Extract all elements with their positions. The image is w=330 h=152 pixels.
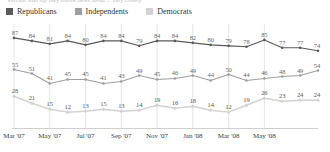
data-point[interactable] — [84, 44, 87, 47]
data-point[interactable] — [245, 104, 248, 107]
legend-item-independents[interactable]: Independents — [75, 7, 129, 16]
series-line-republicans — [14, 38, 318, 51]
data-point[interactable] — [192, 42, 195, 45]
data-point[interactable] — [263, 77, 266, 80]
x-axis-tick-label: Nov '07 — [146, 132, 168, 141]
data-point-label: 82 — [190, 34, 196, 41]
legend-label-independents: Independents — [86, 7, 129, 16]
data-point-label: 55 — [12, 61, 18, 68]
data-point[interactable] — [317, 99, 320, 102]
data-point-label: 80 — [82, 36, 88, 43]
data-point[interactable] — [191, 105, 194, 108]
data-point[interactable] — [84, 78, 87, 81]
line-chart: Percent who say they follow news about .… — [0, 0, 330, 152]
data-point-label: 12 — [64, 103, 70, 110]
data-point[interactable] — [84, 110, 87, 113]
data-point[interactable] — [30, 102, 33, 105]
data-point[interactable] — [156, 78, 159, 81]
data-point-label: 43 — [118, 72, 124, 79]
x-axis-tick-label: Mar '07 — [3, 132, 25, 141]
data-point[interactable] — [174, 40, 177, 43]
data-point[interactable] — [48, 108, 51, 111]
data-point-label: 14 — [208, 101, 214, 108]
data-point[interactable] — [299, 47, 302, 50]
data-point[interactable] — [209, 79, 212, 82]
data-point[interactable] — [299, 74, 302, 77]
data-point[interactable] — [120, 40, 123, 43]
data-point-label: 23 — [279, 92, 285, 99]
data-point[interactable] — [192, 74, 195, 77]
data-point[interactable] — [174, 77, 177, 80]
data-point[interactable] — [31, 72, 34, 75]
x-axis-tick-label: May '07 — [38, 132, 61, 141]
data-point[interactable] — [13, 68, 16, 71]
data-point[interactable] — [263, 97, 266, 100]
legend-item-republicans[interactable]: Republicans — [6, 7, 57, 16]
data-point-label: 54 — [314, 62, 320, 69]
data-point-label: 51 — [29, 65, 35, 72]
data-point[interactable] — [31, 40, 34, 43]
data-point[interactable] — [317, 49, 320, 52]
legend-swatch-republicans — [6, 8, 13, 15]
data-point[interactable] — [138, 74, 141, 77]
data-point[interactable] — [173, 107, 176, 110]
data-point-label: 81 — [47, 35, 53, 42]
data-point[interactable] — [227, 111, 230, 114]
data-point-label: 41 — [100, 74, 106, 81]
data-point[interactable] — [48, 43, 51, 46]
data-point[interactable] — [66, 111, 69, 114]
data-point-label: 19 — [154, 96, 160, 103]
data-point[interactable] — [245, 79, 248, 82]
data-point[interactable] — [281, 75, 284, 78]
data-point-label: 45 — [82, 70, 88, 77]
data-point-label: 77 — [297, 39, 303, 46]
data-point[interactable] — [66, 78, 69, 81]
data-point[interactable] — [263, 39, 266, 42]
data-point-label: 44 — [243, 71, 249, 78]
data-point[interactable] — [13, 37, 16, 40]
data-point[interactable] — [120, 80, 123, 83]
data-point[interactable] — [102, 40, 105, 43]
data-point-label: 49 — [136, 67, 142, 74]
data-point[interactable] — [102, 82, 105, 85]
data-point[interactable] — [245, 46, 248, 49]
data-point[interactable] — [209, 109, 212, 112]
data-point[interactable] — [227, 73, 230, 76]
data-point-label: 48 — [279, 68, 285, 75]
data-point[interactable] — [13, 95, 16, 98]
data-point-label: 84 — [172, 32, 178, 39]
data-point[interactable] — [156, 40, 159, 43]
data-point[interactable] — [156, 104, 159, 107]
data-point-label: 13 — [118, 102, 124, 109]
data-point-label: 46 — [261, 69, 267, 76]
data-point[interactable] — [317, 69, 320, 72]
data-point-label: 85 — [261, 31, 267, 38]
data-point-label: 24 — [297, 91, 303, 98]
data-point-label: 79 — [225, 37, 231, 44]
data-point[interactable] — [102, 108, 105, 111]
data-point[interactable] — [48, 82, 51, 85]
data-point[interactable] — [281, 47, 284, 50]
data-point[interactable] — [299, 99, 302, 102]
data-point-label: 24 — [314, 91, 320, 98]
data-point-label: 77 — [279, 39, 285, 46]
data-point[interactable] — [66, 40, 69, 43]
x-axis-tick-label: May '08 — [253, 132, 276, 141]
data-point[interactable] — [281, 100, 284, 103]
x-axis-tick-label: Mar '08 — [218, 132, 240, 141]
data-point[interactable] — [120, 110, 123, 113]
data-point[interactable] — [227, 45, 230, 48]
legend-label-democrats: Democrats — [157, 7, 192, 16]
data-point-label: 45 — [154, 70, 160, 77]
plot-area: 8784818480848479848482807978857777745551… — [0, 24, 330, 128]
data-point-label: 28 — [12, 87, 18, 94]
data-point-label: 13 — [82, 102, 88, 109]
data-point[interactable] — [138, 45, 141, 48]
data-point-label: 50 — [225, 66, 231, 73]
data-point-label: 78 — [243, 38, 249, 45]
data-point[interactable] — [209, 44, 212, 47]
legend-item-democrats[interactable]: Democrats — [146, 7, 192, 16]
data-point-label: 12 — [225, 103, 231, 110]
data-point-label: 18 — [190, 97, 196, 104]
data-point[interactable] — [138, 109, 141, 112]
